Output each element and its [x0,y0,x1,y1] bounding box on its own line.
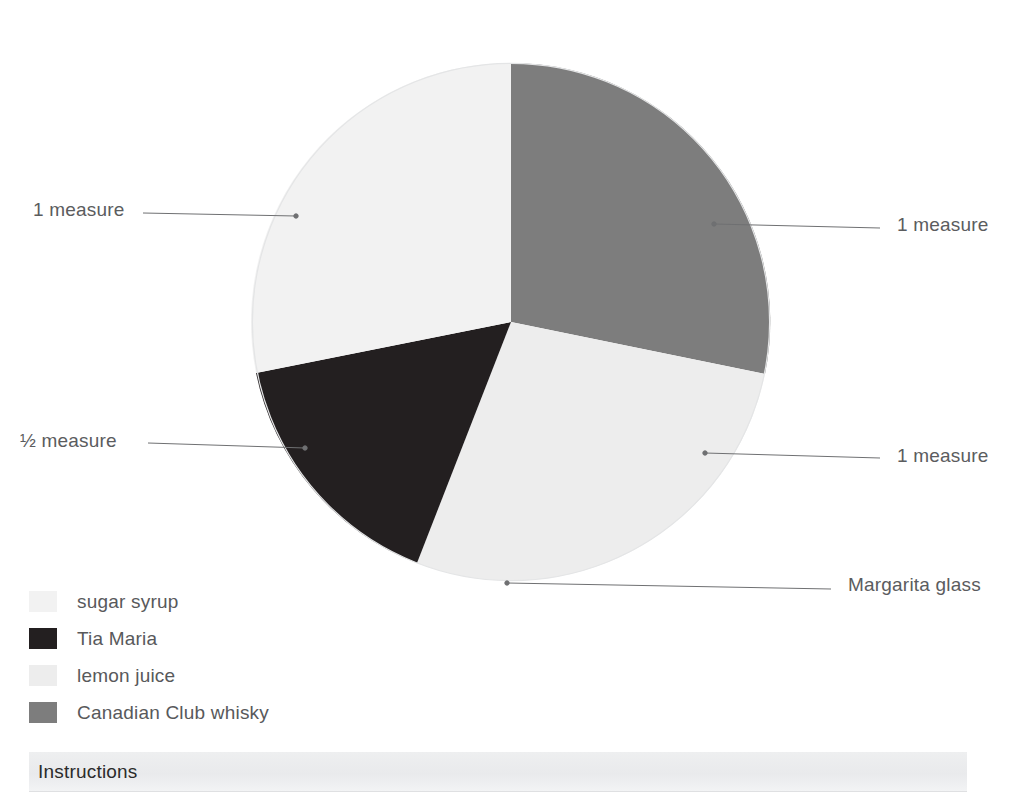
instructions-heading: Instructions [38,762,138,781]
legend-swatch-tia-maria [29,628,57,649]
legend-label-tia-maria: Tia Maria [77,629,157,648]
leader-dot-tia-maria [303,446,307,450]
leader-dot-canadian-club-whisky [712,222,716,226]
callout-label-lemon-juice: 1 measure [897,446,989,465]
pie-slice-canadian-club-whisky[interactable] [511,63,770,374]
leader-line-sugar-syrup [143,213,296,216]
chart-legend: sugar syrup Tia Maria lemon juice Canadi… [29,583,429,731]
legend-item-tia-maria[interactable]: Tia Maria [29,620,429,657]
callout-label-tia-maria: ½ measure [20,431,117,450]
legend-item-lemon-juice[interactable]: lemon juice [29,657,429,694]
leader-dot-lemon-juice [703,451,707,455]
legend-item-canadian-club-whisky[interactable]: Canadian Club whisky [29,694,429,731]
legend-label-canadian-club-whisky: Canadian Club whisky [77,703,269,722]
callout-label-sugar-syrup: 1 measure [33,200,125,219]
pie-slice-sugar-syrup[interactable] [251,63,511,373]
pie-chart-figure: 1 measure ½ measure 1 measure 1 measure … [0,0,1030,792]
leader-dot-sugar-syrup [294,214,298,218]
legend-label-lemon-juice: lemon juice [77,666,175,685]
legend-swatch-lemon-juice [29,665,57,686]
callout-label-margarita-glass: Margarita glass [848,575,981,594]
leader-line-margarita-glass [507,583,831,589]
leader-line-tia-maria [148,443,305,448]
legend-swatch-canadian-club-whisky [29,702,57,723]
legend-swatch-sugar-syrup [29,591,57,612]
callout-label-canadian-club-whisky: 1 measure [897,215,989,234]
legend-item-sugar-syrup[interactable]: sugar syrup [29,583,429,620]
legend-label-sugar-syrup: sugar syrup [77,592,178,611]
instructions-section: Instructions [29,752,967,792]
leader-dot-margarita-glass [505,581,509,585]
